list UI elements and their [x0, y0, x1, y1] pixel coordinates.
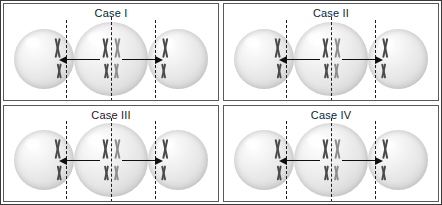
chromosome: [100, 38, 111, 58]
chromosome: [112, 38, 123, 58]
parent-division-plane: [331, 17, 332, 101]
right-arrow: [342, 160, 376, 161]
chromosome: [274, 64, 283, 79]
chromosome-group-lower: [274, 64, 283, 79]
chromosome: [332, 139, 343, 159]
panel-case-3: Case III: [3, 105, 219, 203]
left-arrow: [66, 59, 100, 60]
chromosome-group-lower: [159, 64, 168, 79]
chromosome-group-lower: [274, 165, 283, 180]
chromosome-group-lower: [379, 165, 388, 180]
chromosome: [332, 165, 341, 180]
right-arrow: [122, 160, 156, 161]
chromosome: [332, 64, 341, 79]
panel-case-4: Case IV: [223, 105, 439, 203]
panel-stage: [224, 122, 438, 200]
chromosome: [112, 64, 121, 79]
left-arrow: [286, 59, 320, 60]
chromosome: [54, 165, 63, 180]
parent-division-plane: [111, 118, 112, 202]
right-arrow: [342, 59, 376, 60]
chromosome: [322, 165, 331, 180]
chromosome: [102, 64, 111, 79]
panel-case-1: Case I: [3, 3, 219, 101]
chromosome: [379, 165, 388, 180]
panel-stage: [224, 20, 438, 98]
chromosome: [274, 165, 283, 180]
panel-stage: [4, 122, 218, 200]
chromosome-group-lower: [54, 64, 63, 79]
chromosome: [159, 165, 168, 180]
left-arrow: [66, 160, 100, 161]
chromosome: [320, 139, 331, 159]
chromosome: [320, 38, 331, 58]
chromosome: [112, 139, 123, 159]
chromosome: [102, 165, 111, 180]
panel-grid: Case ICase IICase IIICase IV: [1, 1, 441, 204]
cell-division-figure: Case ICase IICase IIICase IV: [0, 0, 442, 205]
chromosome: [159, 64, 168, 79]
parent-division-plane: [331, 118, 332, 202]
panel-case-2: Case II: [223, 3, 439, 101]
chromosome: [54, 64, 63, 79]
chromosome-group-lower: [379, 64, 388, 79]
panel-stage: [4, 20, 218, 98]
chromosome: [332, 38, 343, 58]
chromosome: [112, 165, 121, 180]
chromosome: [379, 64, 388, 79]
left-arrow: [286, 160, 320, 161]
parent-division-plane: [111, 17, 112, 101]
chromosome-group-lower: [159, 165, 168, 180]
right-arrow: [122, 59, 156, 60]
chromosome: [322, 64, 331, 79]
chromosome-group-lower: [54, 165, 63, 180]
chromosome: [100, 139, 111, 159]
